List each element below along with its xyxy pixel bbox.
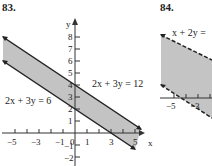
y-axis-arrow-icon bbox=[72, 18, 78, 25]
svg-text:4: 4 bbox=[68, 80, 73, 90]
svg-text:x: x bbox=[148, 138, 153, 148]
svg-text:3: 3 bbox=[109, 137, 114, 147]
svg-text:−5: −5 bbox=[166, 101, 176, 111]
equation-label-84: x + 2y = bbox=[172, 27, 206, 38]
svg-text:1: 1 bbox=[85, 137, 90, 147]
svg-text:6: 6 bbox=[68, 56, 73, 66]
equation-label-6: 2x + 3y = 6 bbox=[5, 95, 51, 106]
svg-text:7: 7 bbox=[68, 44, 73, 54]
svg-text:−3: −3 bbox=[31, 137, 41, 147]
svg-text:5: 5 bbox=[133, 137, 138, 147]
equation-label-12: 2x + 3y = 12 bbox=[92, 78, 143, 89]
x-axis-arrow-icon bbox=[139, 130, 145, 136]
svg-text:−5: −5 bbox=[7, 137, 17, 147]
svg-text:8: 8 bbox=[68, 32, 73, 42]
svg-text:3: 3 bbox=[68, 92, 73, 102]
svg-text:2: 2 bbox=[68, 104, 73, 114]
svg-text:y: y bbox=[66, 19, 71, 29]
svg-text:1: 1 bbox=[68, 116, 73, 126]
svg-text:−1: −1 bbox=[55, 137, 65, 147]
svg-text:5: 5 bbox=[68, 68, 73, 78]
svg-text:−3: −3 bbox=[190, 101, 200, 111]
svg-text:−2: −2 bbox=[64, 153, 74, 163]
svg-text:0: 0 bbox=[70, 137, 75, 147]
